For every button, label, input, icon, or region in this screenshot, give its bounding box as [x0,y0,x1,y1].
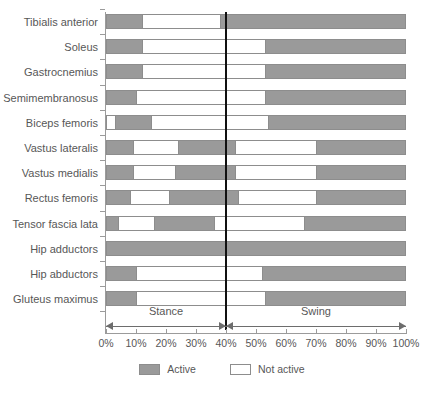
category-label-soleus: Soleus [0,41,98,53]
x-axis-tick [136,329,137,334]
arrow-line [106,326,226,327]
category-labels: Tibialis anteriorSoleusGastrocnemiusSemi… [0,0,444,395]
x-axis-tick [106,329,107,334]
chart-legend: Active Not active [0,363,444,375]
category-label-vastus-lateralis: Vastus lateralis [0,142,98,154]
legend-item-active: Active [139,363,196,375]
arrow-head-right-icon [219,322,226,330]
x-axis-tick [316,329,317,334]
phase-label-swing: Swing [226,305,406,317]
phase-label-stance: Stance [106,305,226,317]
x-axis-tick [376,329,377,334]
x-axis-tick [346,329,347,334]
x-axis-tick [166,329,167,334]
category-label-tensor-fascia-lata: Tensor fascia lata [0,218,98,230]
category-label-biceps-femoris: Biceps femoris [0,117,98,129]
x-axis-tick [406,329,407,334]
category-label-vastus-medialis: Vastus medialis [0,167,98,179]
legend-label-active: Active [167,363,196,375]
x-axis-tick [256,329,257,334]
category-label-tibialis-anterior: Tibialis anterior [0,16,98,28]
x-axis-tick [196,329,197,334]
stance-swing-divider-line [225,12,227,330]
gait-muscle-activity-chart: Tibialis anteriorSoleusGastrocnemiusSemi… [0,0,444,395]
x-axis-tick-label: 100% [381,337,431,349]
category-label-hip-adductors: Hip adductors [0,243,98,255]
legend-item-not-active: Not active [230,363,305,375]
legend-label-not-active: Not active [258,363,305,375]
x-axis-tick [286,329,287,334]
category-label-semimembranosus: Semimembranosus [0,92,98,104]
arrow-line [226,326,406,327]
legend-swatch-not-active-icon [230,364,251,375]
category-label-gluteus-maximus: Gluteus maximus [0,293,98,305]
category-label-rectus-femoris: Rectus femoris [0,192,98,204]
arrow-head-right-icon [399,322,406,330]
legend-swatch-active-icon [139,364,160,375]
category-label-gastrocnemius: Gastrocnemius [0,66,98,78]
x-axis-tick [226,329,227,334]
category-label-hip-abductors: Hip abductors [0,268,98,280]
